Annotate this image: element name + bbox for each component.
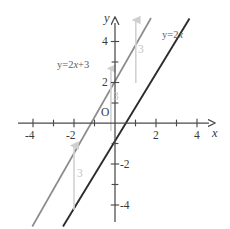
x-axis	[18, 119, 209, 127]
graph-figure: -4 -2 2 4 4 2 -2 -4 O x y y=2x+3 y=2x 3 …	[0, 0, 230, 229]
line-y-equals-2x-plus-3	[32, 18, 151, 227]
translation-arrow-group	[74, 21, 136, 211]
coordinate-plane	[0, 0, 230, 229]
